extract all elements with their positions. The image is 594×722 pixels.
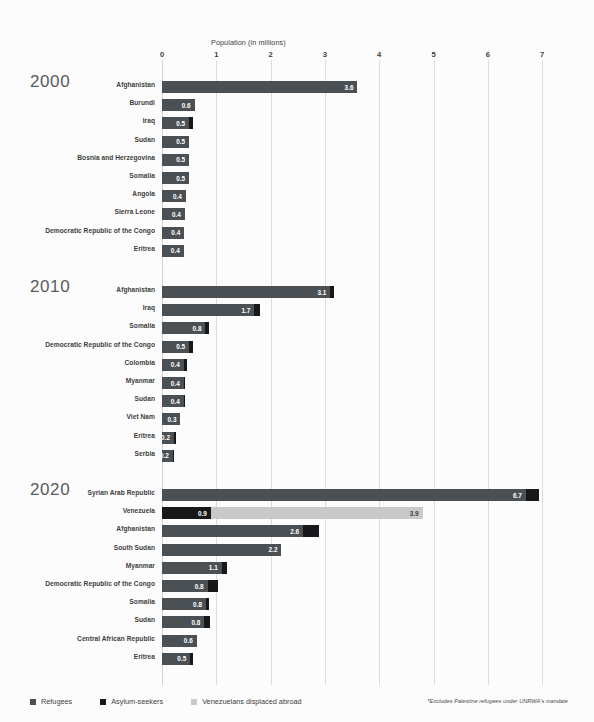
bar-track: 0.2 [162,450,174,462]
bar-segment-refugees: 0.5 [162,154,189,166]
bar-row-label: Sierra Leone [0,208,155,215]
bar-row-label: Colombia [0,359,155,366]
bar-row[interactable]: Myanmar0.4 [0,374,594,392]
bar-row[interactable]: Myanmar1.1 [0,559,594,577]
bar-row[interactable]: Eritrea0.2 [0,429,594,447]
bar-segment-refugees: 2.6 [162,525,303,537]
bar-row[interactable]: Somalia0.8 [0,595,594,613]
bar-row[interactable]: Somalia0.8 [0,319,594,337]
bar-row-label: Iraq [0,304,155,311]
bar-row-label: Myanmar [0,377,155,384]
bar-row[interactable]: Colombia0.4 [0,356,594,374]
bar-segment-asylum [303,525,319,537]
bar-segment-refugees: 0.8 [162,580,208,592]
bar-row-label: Democratic Republic of the Congo [0,580,155,587]
bar-row-label: Afghanistan [0,286,155,293]
bar-segment-refugees: 3.6 [162,81,357,93]
bar-row[interactable]: South Sudan2.2 [0,541,594,559]
bar-row[interactable]: Sudan0.4 [0,392,594,410]
bar-row[interactable]: Eritrea0.4 [0,242,594,260]
bar-segment-refugees: 0.5 [162,117,189,129]
x-tick-3: 3 [323,50,327,59]
bar-segment-refugees: 0.2 [162,450,173,462]
bar-segment-refugees: 0.5 [162,172,189,184]
bar-segment-refugees: 1.1 [162,562,222,574]
bar-row[interactable]: Afghanistan2.6 [0,522,594,540]
bar-segment-asylum [206,598,209,610]
bar-row[interactable]: Iraq1.7 [0,301,594,319]
bar-value-label: 1.1 [209,564,218,571]
x-tick-4: 4 [377,50,381,59]
bar-track: 0.3 [162,413,180,425]
bar-value-label: 0.8 [193,601,202,608]
bar-segment-refugees: 0.4 [162,227,184,239]
bar-value-label: 0.5 [176,120,185,127]
bar-row[interactable]: Syrian Arab Republic6.7 [0,486,594,504]
bar-row-label: Burundi [0,99,155,106]
bar-row[interactable]: Venezuela0.93.9 [0,504,594,522]
bar-row[interactable]: Afghanistan3.6 [0,78,594,96]
legend-item-venezuela[interactable]: Venezuelans displaced abroad [191,697,301,706]
bar-row-label: Democratic Republic of the Congo [0,227,155,234]
bar-track: 0.4 [162,395,185,407]
bar-segment-refugees: 0.8 [162,616,204,628]
bar-value-label: 0.5 [177,655,186,662]
bar-segment-asylum [174,432,176,444]
bar-segment-asylum [184,359,187,371]
legend-item-asylum[interactable]: Asylum-seekers [100,697,163,706]
bar-row[interactable]: Sudan0.8 [0,613,594,631]
x-tick-1: 1 [214,50,218,59]
bar-row[interactable]: Eritrea0.5 [0,650,594,668]
bar-row-label: Sudan [0,616,155,623]
bar-segment-asylum [189,341,193,353]
bar-segment-refugees: 0.5 [162,653,190,665]
x-tick-2: 2 [268,50,272,59]
bar-row[interactable]: Angola0.4 [0,187,594,205]
bar-row[interactable]: Somalia0.5 [0,169,594,187]
bar-value-label: 0.4 [173,193,182,200]
bar-track: 0.2 [162,432,176,444]
bar-value-label: 0.5 [176,138,185,145]
bar-track: 0.6 [162,99,195,111]
bar-row[interactable]: Serbia0.2 [0,447,594,465]
bar-row[interactable]: Central African Republic0.6 [0,632,594,650]
bar-row-label: Eritrea [0,653,155,660]
bar-track: 0.8 [162,580,218,592]
legend-item-refugees[interactable]: Refugees [30,697,72,706]
bar-track: 0.4 [162,245,184,257]
bar-segment-asylum [173,450,174,462]
bar-row[interactable]: Viet Nam0.3 [0,410,594,428]
bar-row[interactable]: Democratic Republic of the Congo0.8 [0,577,594,595]
bar-track: 1.1 [162,562,227,574]
bar-row-label: Sudan [0,136,155,143]
bar-row-label: Afghanistan [0,81,155,88]
bar-track: 2.6 [162,525,319,537]
bar-value-label: 0.6 [182,102,191,109]
bar-row[interactable]: Democratic Republic of the Congo0.5 [0,338,594,356]
bar-track: 0.5 [162,136,189,148]
bar-row[interactable]: Bosnia and Herzegovina0.5 [0,151,594,169]
bar-row[interactable]: Iraq0.5 [0,114,594,132]
bar-segment-asylum [526,489,540,501]
bar-row[interactable]: Sierra Leone0.4 [0,205,594,223]
bar-track: 0.8 [162,322,209,334]
bar-track: 3.6 [162,81,357,93]
bar-segment-asylum [330,286,334,298]
bar-row[interactable]: Democratic Republic of the Congo0.4 [0,224,594,242]
legend-label: Venezuelans displaced abroad [202,697,301,706]
bar-row[interactable]: Sudan0.5 [0,133,594,151]
bar-row-label: Iraq [0,117,155,124]
bar-segment-asylum [189,117,193,129]
bar-track: 6.7 [162,489,539,501]
bar-value-label: 0.4 [171,247,180,254]
bar-track: 0.4 [162,377,185,389]
bar-segment-venezuela: 3.9 [211,507,423,519]
bar-row[interactable]: Burundi0.6 [0,96,594,114]
bar-track: 2.2 [162,544,281,556]
bar-row[interactable]: Afghanistan3.1 [0,283,594,301]
bar-value-label: 0.8 [193,325,202,332]
bar-row-label: Syrian Arab Republic [0,489,155,496]
bar-value-label: 2.2 [269,546,278,553]
bar-track: 0.6 [162,635,197,647]
legend-label: Refugees [41,697,72,706]
